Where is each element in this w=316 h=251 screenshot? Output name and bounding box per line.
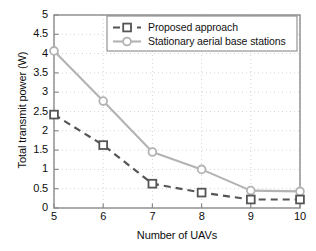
x-tick-label-8: 8 [189, 210, 215, 222]
x-tick-label-5: 5 [41, 210, 67, 222]
y-axis-label: Total transmit power (W) [14, 12, 30, 208]
legend-label-proposed: Proposed approach [148, 21, 238, 33]
x-tick-label-10: 10 [287, 210, 313, 222]
x-tick-label-7: 7 [139, 210, 165, 222]
chart-figure: Proposed approach Stationary aerial base… [0, 0, 316, 251]
x-tick-label-6: 6 [90, 210, 116, 222]
legend-label-stationary: Stationary aerial base stations [148, 35, 286, 47]
x-tick-label-9: 9 [238, 210, 264, 222]
x-axis-label: Number of UAVs [54, 229, 300, 241]
